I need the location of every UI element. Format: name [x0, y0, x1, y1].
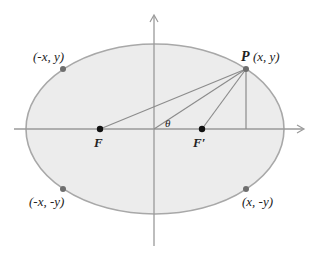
label-bottom-right: (x, -y)	[242, 194, 273, 209]
point-P-dot	[243, 66, 249, 72]
point-top-left-dot	[60, 66, 66, 72]
diagram-svg: P (x, y) (-x, y) (-x, -y) (x, -y) F F′ θ	[0, 0, 319, 261]
label-focus-F-prime: F′	[192, 135, 206, 150]
point-bottom-right-dot	[243, 186, 249, 192]
label-P-name: P	[241, 49, 250, 64]
label-P-coords: (x, y)	[253, 49, 280, 64]
label-top-left: (-x, y)	[33, 49, 64, 64]
focus-F-dot	[97, 126, 103, 132]
label-bottom-left: (-x, -y)	[29, 194, 64, 209]
label-focus-F: F	[93, 135, 103, 150]
focus-F-prime-dot	[199, 126, 205, 132]
point-bottom-left-dot	[60, 186, 66, 192]
ellipse-diagram: P (x, y) (-x, y) (-x, -y) (x, -y) F F′ θ	[0, 0, 319, 261]
label-angle-theta: θ	[165, 117, 171, 129]
